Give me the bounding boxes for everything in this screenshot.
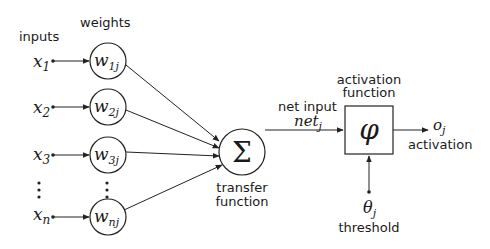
svg-text:x2: x2 bbox=[33, 97, 50, 120]
sigma-icon: Σ bbox=[232, 136, 252, 169]
svg-text:function: function bbox=[215, 194, 268, 209]
ellipsis bbox=[37, 181, 108, 198]
input-row-3: x3 w3j bbox=[33, 137, 126, 173]
svg-text:x3: x3 bbox=[33, 144, 51, 167]
inputs-label: inputs bbox=[19, 29, 59, 44]
svg-text:xn: xn bbox=[33, 204, 50, 227]
activation-label: activation bbox=[408, 137, 472, 152]
phi-icon: φ bbox=[359, 113, 379, 146]
svg-text:function: function bbox=[342, 85, 395, 100]
net-symbol: netj bbox=[294, 112, 323, 133]
theta-symbol: θj bbox=[363, 198, 377, 220]
input-row-1: x1 w1j bbox=[33, 43, 126, 79]
threshold-label: threshold bbox=[338, 220, 399, 235]
input-row-n: xn wnj bbox=[33, 199, 126, 235]
weights-label: weights bbox=[80, 15, 131, 30]
input-row-2: x2 w2j bbox=[33, 89, 126, 125]
output-symbol: oj bbox=[433, 116, 446, 137]
perceptron-diagram: inputs weights x1 w1j x2 w2j x3 w3j xn w… bbox=[0, 0, 490, 249]
weight-edges bbox=[124, 65, 222, 210]
svg-text:transfer: transfer bbox=[216, 180, 268, 195]
svg-text:x1: x1 bbox=[33, 51, 50, 74]
